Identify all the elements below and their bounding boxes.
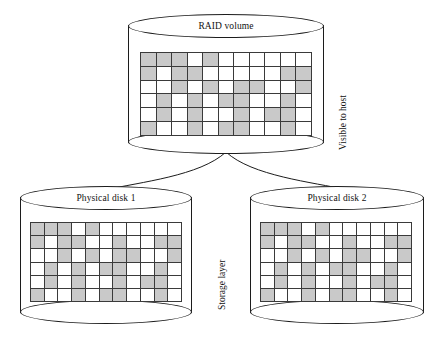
- grid-cell: [172, 81, 188, 95]
- grid-cell: [141, 67, 157, 81]
- grid-cell: [302, 289, 316, 302]
- grid-cell: [141, 122, 157, 136]
- diagram-canvas: RAID volume Visible to host Storage laye…: [0, 0, 446, 340]
- grid-cell: [261, 263, 275, 276]
- grid-cell: [168, 249, 182, 262]
- grid-cell: [157, 94, 173, 108]
- grid-cell: [86, 289, 100, 302]
- physical-disk-2-title: Physical disk 2: [250, 193, 424, 203]
- grid-cell: [288, 249, 302, 262]
- grid-cell: [172, 122, 188, 136]
- grid-cell: [261, 289, 275, 302]
- grid-cell: [157, 53, 173, 67]
- grid-cell: [172, 53, 188, 67]
- grid-cell: [385, 236, 399, 249]
- grid-cell: [316, 223, 330, 236]
- grid-cell: [265, 108, 281, 122]
- grid-cell: [385, 276, 399, 289]
- grid-cell: [45, 276, 59, 289]
- grid-cell: [281, 81, 297, 95]
- grid-cell: [188, 108, 204, 122]
- grid-cell: [343, 263, 357, 276]
- grid-cell: [157, 81, 173, 95]
- grid-cell: [330, 263, 344, 276]
- grid-cell: [330, 236, 344, 249]
- grid-cell: [219, 81, 235, 95]
- grid-cell: [296, 94, 312, 108]
- grid-cell: [288, 263, 302, 276]
- raid-volume-grid: [140, 52, 312, 136]
- grid-cell: [302, 236, 316, 249]
- grid-cell: [357, 249, 371, 262]
- grid-cell: [141, 53, 157, 67]
- grid-cell: [302, 249, 316, 262]
- grid-cell: [316, 263, 330, 276]
- grid-cell: [219, 94, 235, 108]
- grid-cell: [172, 108, 188, 122]
- grid-cell: [203, 53, 219, 67]
- grid-cell: [58, 263, 72, 276]
- grid-cell: [45, 249, 59, 262]
- grid-cell: [155, 263, 169, 276]
- grid-cell: [203, 122, 219, 136]
- raid-volume-cylinder: RAID volume: [128, 14, 324, 154]
- grid-cell: [58, 289, 72, 302]
- grid-cell: [31, 276, 45, 289]
- grid-cell: [188, 81, 204, 95]
- grid-cell: [219, 122, 235, 136]
- grid-cell: [172, 94, 188, 108]
- grid-cell: [113, 289, 127, 302]
- grid-cell: [168, 263, 182, 276]
- grid-cell: [281, 67, 297, 81]
- grid-cell: [58, 276, 72, 289]
- grid-cell: [188, 94, 204, 108]
- grid-cell: [330, 276, 344, 289]
- grid-cell: [188, 122, 204, 136]
- grid-cell: [203, 81, 219, 95]
- grid-cell: [203, 108, 219, 122]
- grid-cell: [234, 94, 250, 108]
- grid-cell: [250, 67, 266, 81]
- grid-cell: [155, 249, 169, 262]
- grid-cell: [343, 289, 357, 302]
- grid-cell: [302, 276, 316, 289]
- grid-cell: [58, 249, 72, 262]
- grid-cell: [141, 81, 157, 95]
- grid-cell: [234, 122, 250, 136]
- grid-cell: [31, 263, 45, 276]
- grid-cell: [58, 236, 72, 249]
- grid-cell: [281, 108, 297, 122]
- grid-cell: [100, 289, 114, 302]
- grid-cell: [302, 263, 316, 276]
- grid-cell: [127, 249, 141, 262]
- grid-cell: [398, 249, 412, 262]
- grid-cell: [275, 223, 289, 236]
- grid-cell: [141, 236, 155, 249]
- grid-cell: [281, 122, 297, 136]
- grid-cell: [275, 276, 289, 289]
- grid-cell: [157, 122, 173, 136]
- grid-cell: [72, 236, 86, 249]
- grid-cell: [385, 263, 399, 276]
- grid-cell: [250, 81, 266, 95]
- grid-cell: [275, 289, 289, 302]
- grid-cell: [281, 53, 297, 67]
- grid-cell: [357, 276, 371, 289]
- grid-cell: [250, 122, 266, 136]
- physical-disk-1-cylinder: Physical disk 1: [20, 186, 192, 324]
- physical-disk-1-grid: [30, 222, 182, 302]
- grid-cell: [141, 263, 155, 276]
- grid-cell: [203, 67, 219, 81]
- physical-disk-2-cylinder: Physical disk 2: [250, 186, 424, 324]
- grid-cell: [141, 94, 157, 108]
- grid-cell: [141, 289, 155, 302]
- grid-cell: [100, 276, 114, 289]
- grid-cell: [72, 276, 86, 289]
- grid-cell: [371, 236, 385, 249]
- grid-cell: [398, 289, 412, 302]
- grid-cell: [371, 276, 385, 289]
- grid-cell: [203, 94, 219, 108]
- label-storage-layer: Storage layer: [217, 260, 227, 310]
- grid-cell: [141, 249, 155, 262]
- grid-cell: [371, 249, 385, 262]
